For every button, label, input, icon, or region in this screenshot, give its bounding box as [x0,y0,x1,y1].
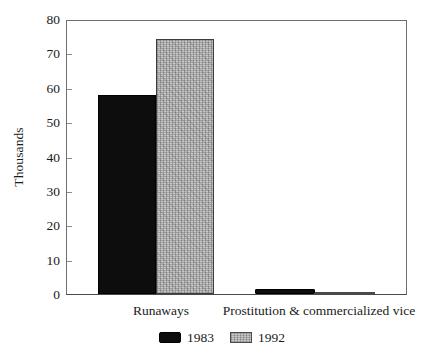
x-label-prostitution: Prostitution & commercialized vice [223,303,415,319]
y-tick-label-70: 70 [32,48,60,62]
y-tick-label-50: 50 [32,116,60,130]
x-axis-category-labels: Runaways Prostitution & commercialized v… [66,303,407,325]
legend-entry-1983: 1983 [159,331,214,345]
bar-runaways-1983 [98,95,156,294]
y-tick-label-60: 60 [32,82,60,96]
gray-swatch-icon [230,332,252,343]
black-swatch-icon [159,332,181,343]
bar-prostitution-1992 [315,292,375,294]
y-tick-label-20: 20 [32,220,60,234]
legend-label-1992: 1992 [258,331,285,345]
y-tick-label-30: 30 [32,185,60,199]
bar-chart: Thousands 80 70 60 50 40 30 20 10 0 Runa… [0,0,444,363]
y-axis-tick-labels: 80 70 60 50 40 30 20 10 0 [30,20,60,295]
chart-legend: 1983 1992 [0,331,444,345]
x-label-runaways: Runaways [133,303,189,319]
legend-label-1983: 1983 [187,331,214,345]
y-axis-title: Thousands [11,102,27,212]
y-tick-label-10: 10 [32,254,60,268]
bar-runaways-1992 [156,39,214,294]
bars-layer [67,20,406,294]
y-tick-label-40: 40 [32,151,60,165]
bar-prostitution-1983 [255,289,315,294]
y-tick-label-0: 0 [32,288,60,302]
y-tick-label-80: 80 [32,13,60,27]
legend-entry-1992: 1992 [230,331,285,345]
